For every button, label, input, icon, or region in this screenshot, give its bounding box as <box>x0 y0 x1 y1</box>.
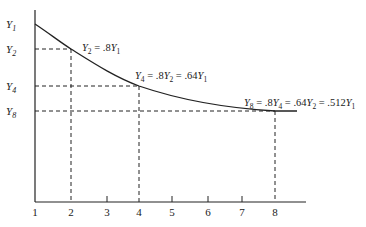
y-label-y8: Y8 <box>6 105 16 120</box>
decay-chart: Y1 Y2 Y4 Y8 Y2 = .8Y1 Y4 = .8Y2 = .64Y1 … <box>0 0 366 227</box>
annotation-y8: Y8 = .8Y4 = .64Y2 = .512Y1 <box>244 97 356 111</box>
y-label-y4: Y4 <box>6 80 16 95</box>
svg-text:3: 3 <box>104 206 110 218</box>
svg-text:8: 8 <box>272 206 278 218</box>
annotation-y2: Y2 = .8Y1 <box>82 42 120 56</box>
svg-text:1: 1 <box>32 206 38 218</box>
svg-text:7: 7 <box>239 206 245 218</box>
y-label-y2: Y2 <box>6 43 16 58</box>
annotation-y4: Y4 = .8Y2 = .64Y1 <box>135 70 207 84</box>
y-label-y1: Y1 <box>6 18 16 33</box>
svg-text:5: 5 <box>169 206 175 218</box>
x-tick-labels: 1 2 3 4 5 6 7 8 <box>32 206 278 218</box>
x-ticks <box>107 196 242 202</box>
svg-text:4: 4 <box>136 206 142 218</box>
svg-text:2: 2 <box>68 206 74 218</box>
svg-text:6: 6 <box>205 206 211 218</box>
